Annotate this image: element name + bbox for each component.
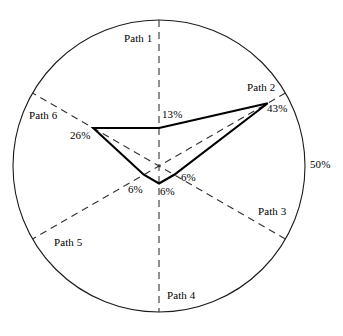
axis-label-path6: Path 6 xyxy=(29,110,57,121)
value-label-path3: 6% xyxy=(181,172,196,183)
value-label-path1: 13% xyxy=(162,109,182,120)
axis-label-path1: Path 1 xyxy=(124,33,152,44)
axis-label-path3: Path 3 xyxy=(258,206,286,217)
scale-label-outer: 50% xyxy=(310,159,330,170)
radar-chart-canvas xyxy=(0,0,343,336)
axis-label-path2: Path 2 xyxy=(247,82,275,93)
radar-chart: Path 1 Path 2 Path 3 Path 4 Path 5 Path … xyxy=(0,0,343,336)
value-label-path2: 43% xyxy=(267,103,287,114)
value-label-path6: 26% xyxy=(70,130,90,141)
axis-label-path4: Path 4 xyxy=(167,290,195,301)
axis-label-path5: Path 5 xyxy=(54,237,82,248)
value-label-path5: 6% xyxy=(128,184,143,195)
value-label-path4: 6% xyxy=(160,186,175,197)
